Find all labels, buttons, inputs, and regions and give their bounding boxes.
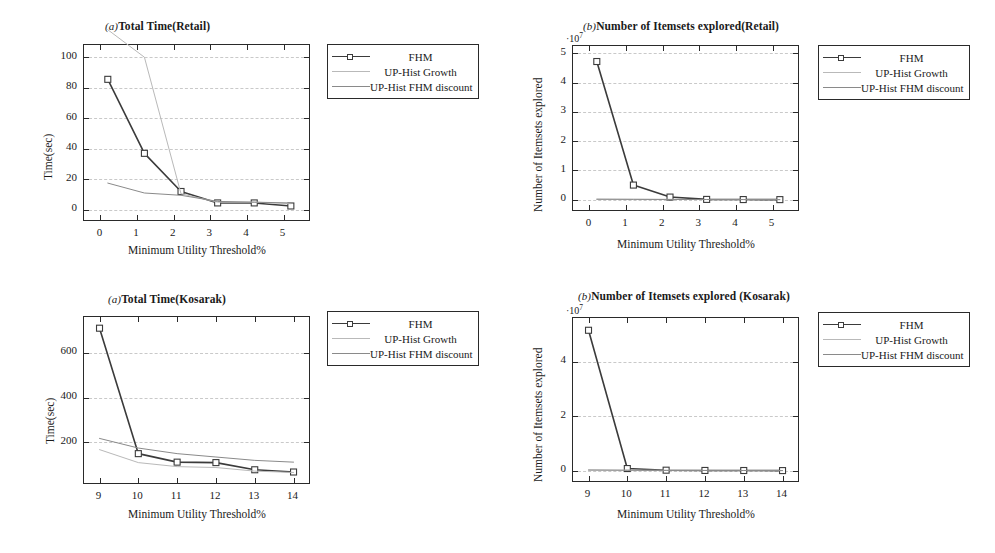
legend-label: UP-Hist Growth (370, 66, 473, 78)
y-axis-exponent-label: ·107 (566, 303, 583, 316)
legend-sample-uphist_fhm_discount (332, 80, 370, 94)
legend-marker (347, 321, 353, 327)
legend-row[interactable]: UP-Hist FHM discount (332, 79, 473, 94)
y-tick-label: 0 (41, 201, 77, 213)
legend-sample-fhm (332, 50, 370, 64)
series-line-uphist_fhm_discount (108, 183, 291, 203)
y-tick-label: 80 (41, 79, 77, 91)
legend-label: FHM (861, 52, 964, 64)
x-tick-label: 13 (238, 489, 270, 501)
x-tick-label: 2 (157, 226, 189, 238)
plot-area (572, 317, 799, 482)
series-layer (84, 45, 311, 222)
legend-row[interactable]: UP-Hist Growth (823, 65, 964, 80)
y-tick-label: 60 (41, 110, 77, 122)
x-tick-label: 12 (688, 487, 720, 499)
chart-legend: FHMUP-Hist GrowthUP-Hist FHM discount (327, 311, 479, 366)
x-tick-label: 11 (160, 489, 192, 501)
y-tick-label: 5 (530, 45, 566, 57)
legend-line (823, 87, 861, 88)
legend-row[interactable]: UP-Hist Growth (332, 64, 473, 79)
legend-sample-fhm (823, 51, 861, 65)
data-point-marker (174, 459, 180, 465)
chart-panel-total-time-kosarak: (a)Total Time(Kosarak)200400600910111213… (0, 278, 497, 550)
chart-panel-itemsets-kosarak: (b)Number of Itemsets explored (Kosarak)… (497, 278, 995, 550)
legend-row[interactable]: UP-Hist Growth (332, 331, 473, 346)
panel-title-text: Number of Itemsets explored(Retail) (596, 20, 779, 32)
legend-marker (838, 55, 844, 61)
legend-label: UP-Hist FHM discount (370, 81, 475, 93)
legend-row[interactable]: UP-Hist FHM discount (823, 347, 964, 362)
legend-row[interactable]: UP-Hist Growth (823, 332, 964, 347)
x-tick-label: 3 (682, 216, 714, 228)
legend-sample-uphist_growth (823, 66, 861, 80)
x-tick-label: 4 (719, 216, 751, 228)
legend-sample-uphist_growth (332, 332, 370, 346)
legend-line (823, 72, 861, 73)
legend-label: UP-Hist Growth (861, 67, 964, 79)
figure-grid: (a)Total Time(Retail)020406080100012345M… (0, 0, 995, 553)
x-tick-label: 9 (572, 487, 604, 499)
x-tick-label: 10 (610, 487, 642, 499)
legend-line (332, 353, 370, 354)
y-axis-exponent-label: ·107 (566, 31, 583, 44)
panel-tag: (a) (108, 293, 121, 305)
data-point-marker (105, 76, 111, 82)
x-axis-title: Minimum Utility Threshold% (73, 244, 321, 256)
x-tick-label: 11 (649, 487, 681, 499)
series-layer (573, 318, 800, 483)
legend-label: FHM (370, 318, 473, 330)
x-tick-label: 13 (727, 487, 759, 499)
legend-line (332, 71, 370, 72)
x-tick-label: 2 (646, 216, 678, 228)
legend-row[interactable]: UP-Hist FHM discount (332, 346, 473, 361)
panel-title: (b)Number of Itemsets explored (Kosarak) (578, 290, 790, 302)
data-point-marker (141, 150, 147, 156)
legend-label: UP-Hist Growth (861, 334, 964, 346)
x-tick-label: 9 (83, 489, 115, 501)
panel-title: (b)Number of Itemsets explored(Retail) (583, 20, 779, 32)
x-tick-label: 12 (199, 489, 231, 501)
chart-legend: FHMUP-Hist GrowthUP-Hist FHM discount (818, 45, 970, 100)
data-point-marker (594, 59, 600, 65)
panel-title: (a)Total Time(Retail) (105, 20, 210, 32)
plot-area (83, 316, 310, 484)
panel-tag: (b) (578, 290, 591, 302)
legend-row[interactable]: FHM (823, 317, 964, 332)
legend-row[interactable]: FHM (332, 49, 473, 64)
plot-area (83, 44, 310, 221)
x-tick-label: 1 (120, 226, 152, 238)
series-line-fhm (597, 62, 780, 200)
x-tick-label: 10 (121, 489, 153, 501)
x-tick-label: 1 (609, 216, 641, 228)
legend-sample-uphist_fhm_discount (332, 347, 370, 361)
legend-marker (838, 322, 844, 328)
legend-row[interactable]: FHM (332, 316, 473, 331)
x-tick-label: 3 (193, 226, 225, 238)
legend-sample-uphist_growth (823, 333, 861, 347)
legend-row[interactable]: FHM (823, 50, 964, 65)
x-tick-label: 0 (83, 226, 115, 238)
series-line-fhm (100, 328, 294, 472)
chart-panel-itemsets-retail: (b)Number of Itemsets explored(Retail)·1… (497, 8, 995, 278)
y-tick-label: 600 (41, 344, 77, 356)
y-axis-title: Time(sec) (42, 134, 54, 180)
legend-sample-uphist_fhm_discount (823, 81, 861, 95)
panel-title-text: Number of Itemsets explored (Kosarak) (591, 290, 790, 302)
x-tick-label: 5 (267, 226, 299, 238)
y-tick-label: 100 (41, 49, 77, 61)
series-layer (84, 317, 311, 485)
legend-row[interactable]: UP-Hist FHM discount (823, 80, 964, 95)
data-point-marker (252, 467, 258, 473)
data-point-marker (630, 182, 636, 188)
data-point-marker (97, 325, 103, 331)
series-line-uphist_fhm_discount (589, 470, 783, 471)
panel-title: (a)Total Time(Kosarak) (108, 293, 226, 305)
x-tick-label: 0 (572, 216, 604, 228)
y-axis-title: Number of Itemsets explored (532, 78, 544, 212)
series-line-fhm (589, 330, 783, 470)
x-tick-label: 14 (277, 489, 309, 501)
series-line-fhm (108, 79, 291, 206)
legend-line (823, 339, 861, 340)
legend-line (823, 354, 861, 355)
